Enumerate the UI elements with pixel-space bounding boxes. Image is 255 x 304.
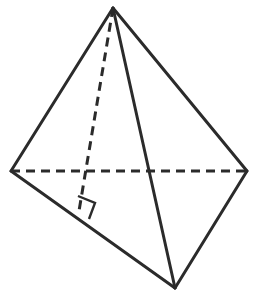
figure-background [0, 0, 255, 304]
tetrahedron-figure [0, 0, 255, 304]
tetrahedron-diagram [0, 0, 255, 304]
